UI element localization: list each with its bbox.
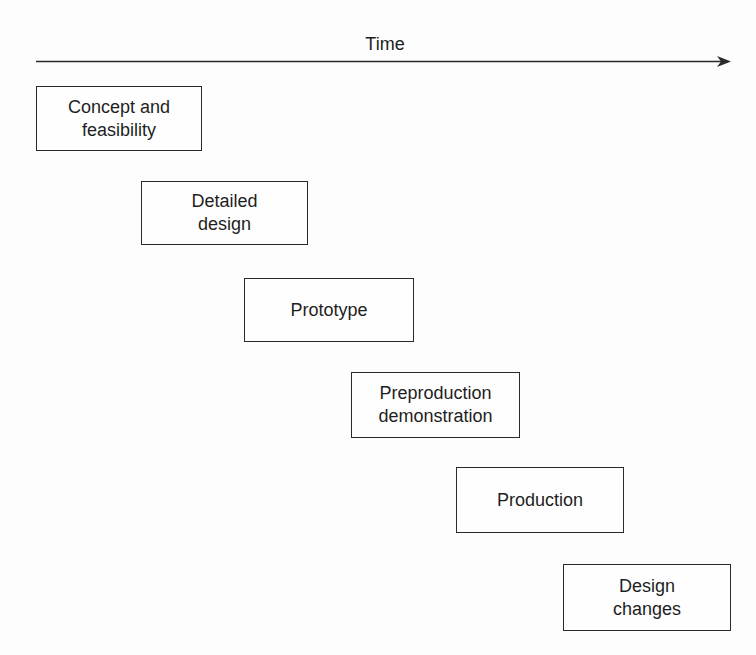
stage-label: Production	[497, 489, 583, 512]
stage-label: Preproduction demonstration	[378, 382, 492, 428]
stage-label: Prototype	[290, 299, 367, 322]
time-axis-arrow	[0, 0, 756, 100]
stage-box-preproduction-demonstration: Preproduction demonstration	[351, 372, 520, 438]
stage-label: Detailed design	[191, 190, 257, 236]
stage-label: Concept and feasibility	[68, 96, 170, 142]
stage-box-concept-feasibility: Concept and feasibility	[36, 86, 202, 151]
stage-box-production: Production	[456, 467, 624, 533]
stage-box-prototype: Prototype	[244, 278, 414, 342]
stage-box-design-changes: Design changes	[563, 564, 731, 631]
stage-box-detailed-design: Detailed design	[141, 181, 308, 245]
stage-label: Design changes	[613, 575, 681, 621]
